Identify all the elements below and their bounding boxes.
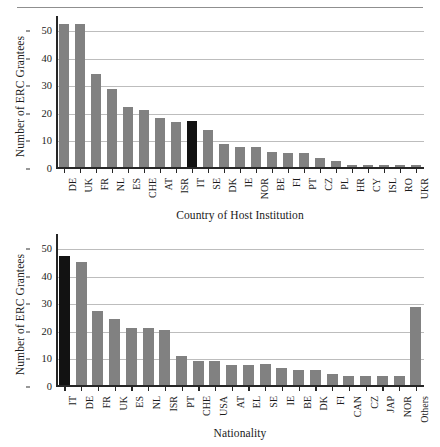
y-tick-label: 50 [30, 26, 52, 37]
bar [283, 153, 294, 168]
x-tick-mark [168, 169, 184, 173]
bar [123, 107, 134, 168]
x-tick-mark [123, 387, 140, 391]
bar-slot [140, 242, 157, 385]
x-tick-mark [290, 387, 307, 391]
x-tick-mark [407, 387, 424, 391]
x-tick-mark [240, 387, 257, 391]
bar [315, 158, 326, 168]
y-tick-label: 50 [30, 244, 52, 255]
x-axis-tickmarks [56, 387, 424, 391]
bar-slot [307, 242, 324, 385]
plot-area-host-institution: Number of ERC Grantees 01020304050 DEUKF… [56, 24, 424, 169]
x-axis-title: Nationality [56, 428, 424, 440]
y-axis-title: Number of ERC Grantees [12, 24, 28, 169]
bar-slot [290, 242, 307, 385]
bar-slot [360, 24, 376, 167]
bar-slot [104, 24, 120, 167]
x-tick-mark [223, 387, 240, 391]
bar [109, 319, 120, 385]
y-tick-mark [26, 141, 30, 142]
x-axis-tickmarks [56, 169, 424, 173]
x-tick-mark [264, 169, 280, 173]
bar-slot [152, 24, 168, 167]
x-tick-mark [72, 169, 88, 173]
plot-area-nationality: Number of ERC Grantees 01020304050 ITDEF… [56, 242, 424, 387]
bar [209, 361, 220, 386]
x-tick-label: Others [420, 396, 430, 423]
bar-slot [340, 242, 357, 385]
bar-slot [264, 24, 280, 167]
figure-page: Number of ERC Grantees 01020304050 DEUKF… [0, 0, 440, 447]
x-tick-mark [307, 387, 324, 391]
bar-slot [248, 24, 264, 167]
bar-slot [344, 24, 360, 167]
x-tick-mark [173, 387, 190, 391]
x-tick-mark [280, 169, 296, 173]
bar-slot [88, 24, 104, 167]
x-tick-mark [140, 387, 157, 391]
bar [310, 370, 321, 385]
bar [59, 256, 70, 385]
y-tick-mark [26, 168, 30, 169]
bar [92, 311, 103, 385]
x-tick-mark [104, 169, 120, 173]
chart-host-institution: Number of ERC Grantees 01020304050 DEUKF… [0, 18, 440, 228]
x-tick-mark [248, 169, 264, 173]
bar-slot [123, 242, 140, 385]
x-tick-mark [391, 387, 408, 391]
y-tick-mark [26, 249, 30, 250]
y-tick-label: 30 [30, 299, 52, 310]
bar-slot [216, 24, 232, 167]
x-tick-mark [200, 169, 216, 173]
bar [219, 144, 230, 167]
x-tick-mark [257, 387, 274, 391]
bar [377, 376, 388, 386]
bar [267, 152, 278, 167]
y-tick-label: 30 [30, 81, 52, 92]
x-tick-mark [408, 169, 424, 173]
x-tick-mark [106, 387, 123, 391]
bar [327, 374, 338, 386]
y-tick-label: 40 [30, 53, 52, 64]
bar-slot [168, 24, 184, 167]
y-tick-mark [26, 331, 30, 332]
bar-slot [407, 242, 424, 385]
x-tick-mark [376, 169, 392, 173]
x-tick-mark [344, 169, 360, 173]
bar [59, 24, 70, 167]
y-tick-label: 10 [30, 354, 52, 365]
bar [394, 376, 405, 386]
bar [251, 147, 262, 167]
bar-slot [56, 24, 72, 167]
x-tick-mark [360, 169, 376, 173]
bar-slot [357, 242, 374, 385]
bar [243, 365, 254, 386]
bar-slot [408, 24, 424, 167]
y-tick-label: 0 [30, 381, 52, 392]
bar [143, 328, 154, 385]
bar-slot [391, 242, 408, 385]
bar [331, 161, 342, 168]
bar [126, 328, 137, 385]
bar-slot [280, 24, 296, 167]
x-tick-mark [73, 387, 90, 391]
x-tick-mark [136, 169, 152, 173]
y-tick-mark [26, 113, 30, 114]
y-tick-mark [26, 86, 30, 87]
bar [235, 147, 246, 167]
x-tick-mark [374, 387, 391, 391]
bar [159, 330, 170, 385]
x-tick-mark [152, 169, 168, 173]
x-tick-mark [340, 387, 357, 391]
bar-slot [257, 242, 274, 385]
y-tick-mark [26, 304, 30, 305]
bar-slot [73, 242, 90, 385]
y-axis-ticks: 01020304050 [30, 24, 52, 169]
bar [260, 364, 271, 385]
bar-slot [89, 242, 106, 385]
bar-slot [328, 24, 344, 167]
bar [107, 89, 118, 167]
x-tick-mark [89, 387, 106, 391]
x-tick-mark [296, 169, 312, 173]
